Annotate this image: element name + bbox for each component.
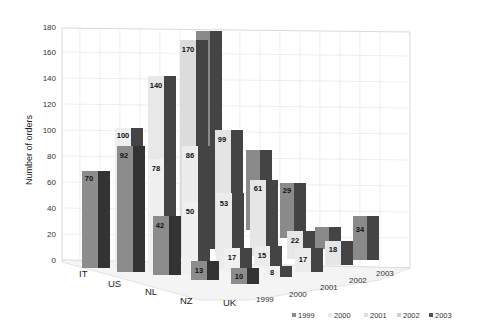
svg-text:100: 100	[117, 131, 130, 140]
legend-label: 2002	[403, 311, 420, 320]
svg-text:17: 17	[299, 255, 307, 264]
svg-text:78: 78	[152, 164, 160, 173]
svg-text:22: 22	[291, 236, 299, 245]
bar: 29	[280, 183, 306, 238]
svg-text:86: 86	[186, 151, 194, 160]
y-tick: 100	[43, 126, 57, 135]
legend-swatch	[292, 313, 296, 317]
svg-text:170: 170	[182, 45, 195, 54]
category-label: NL	[145, 286, 157, 297]
category-label: UK	[223, 297, 237, 308]
svg-text:10: 10	[235, 272, 243, 281]
legend-swatch	[364, 313, 368, 317]
bar: 92	[117, 146, 145, 272]
y-tick: 0	[52, 256, 57, 265]
svg-text:50: 50	[186, 207, 194, 216]
legend-swatch	[429, 313, 433, 317]
y-tick: 140	[43, 74, 57, 83]
depth-label: 2002	[349, 276, 367, 285]
bar: 17	[295, 248, 323, 272]
svg-text:61: 61	[254, 184, 262, 193]
category-label: NZ	[180, 295, 193, 306]
bar: 34	[353, 216, 379, 260]
svg-text:70: 70	[85, 174, 93, 183]
bar: 10	[231, 268, 259, 284]
legend-label: 1999	[298, 311, 315, 320]
svg-text:92: 92	[120, 151, 128, 160]
bar: 42	[153, 216, 181, 275]
bar: 15	[254, 246, 282, 266]
legend-label: 2000	[334, 311, 351, 320]
category-label: US	[108, 278, 121, 289]
legend-label: 2001	[370, 311, 387, 320]
y-tick: 180	[43, 23, 57, 32]
bar: 8	[264, 266, 292, 277]
svg-text:99: 99	[218, 135, 226, 144]
y-axis: 0 20 40 60 80 100 120 140 160 180 Number…	[24, 23, 57, 265]
y-tick: 160	[43, 48, 57, 57]
y-tick: 120	[43, 100, 57, 109]
bar: 61	[250, 180, 278, 256]
svg-text:8: 8	[270, 268, 274, 277]
y-tick: 60	[47, 178, 56, 187]
legend-label: 2003	[435, 311, 452, 320]
svg-text:13: 13	[195, 266, 203, 275]
svg-text:29: 29	[283, 186, 291, 195]
bar: 13	[191, 261, 219, 280]
legend-swatch	[328, 313, 332, 317]
svg-text:42: 42	[156, 221, 164, 230]
y-axis-label: Number of orders	[24, 114, 34, 185]
y-tick: 20	[47, 230, 56, 239]
depth-label: 2001	[320, 283, 338, 292]
svg-text:18: 18	[329, 245, 337, 254]
svg-text:17: 17	[228, 253, 236, 262]
column-chart-3d: 0 20 40 60 80 100 120 140 160 180 Number…	[0, 0, 478, 333]
depth-label: 1999	[256, 295, 274, 304]
y-tick: 80	[47, 152, 56, 161]
depth-label: 2003	[376, 269, 394, 278]
y-tick: 40	[47, 204, 56, 213]
depth-label: 2000	[289, 290, 307, 299]
legend: 1999 2000 2001 2002 2003	[292, 311, 452, 320]
svg-text:53: 53	[220, 199, 228, 208]
svg-text:34: 34	[356, 225, 365, 234]
bar: 18	[325, 241, 353, 265]
svg-text:15: 15	[258, 251, 266, 260]
legend-swatch	[397, 313, 401, 317]
svg-text:140: 140	[150, 81, 163, 90]
category-label: IT	[79, 268, 88, 279]
bar: 70	[82, 171, 110, 268]
